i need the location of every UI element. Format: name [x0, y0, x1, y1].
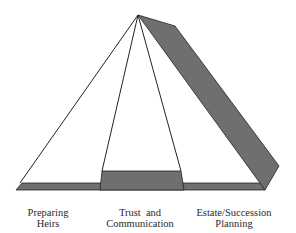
label-line: Planning: [186, 218, 282, 229]
right-side-band: [138, 15, 279, 190]
label-estate-succession: Estate/Succession Planning: [186, 207, 282, 229]
label-line: Heirs: [18, 218, 78, 229]
label-line: Preparing: [18, 207, 78, 218]
label-trust-communication: Trust and Communication: [100, 207, 180, 229]
label-line: Communication: [100, 218, 180, 229]
label-preparing-heirs: Preparing Heirs: [18, 207, 78, 229]
label-line: Estate/Succession: [186, 207, 282, 218]
left-edge: [20, 15, 138, 183]
label-line: Trust and: [100, 207, 180, 218]
pyramid-diagram: [0, 0, 296, 233]
center-block: [100, 171, 184, 190]
inner-line-left: [102, 15, 138, 171]
